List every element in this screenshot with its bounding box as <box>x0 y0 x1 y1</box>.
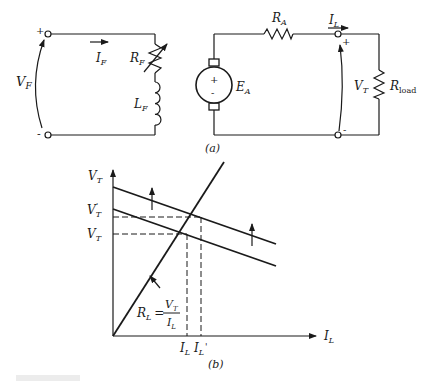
vt-prime-label: VT' <box>87 201 102 219</box>
terminal-voltage-label: VT <box>354 79 369 95</box>
figure-canvas: + - VF IF RF LF + - EA RA <box>0 0 428 384</box>
caption-part-b: (b) <box>208 358 224 371</box>
output-terminal-plus <box>335 31 341 37</box>
svg-text:IL: IL <box>166 316 176 331</box>
field-inductor-icon <box>155 82 161 125</box>
svg-text:VT: VT <box>165 298 179 313</box>
caption-part-a: (a) <box>205 142 220 155</box>
x-axis-label: IL <box>323 329 334 345</box>
field-current-label: IF <box>95 51 107 67</box>
brush-bottom <box>209 103 219 110</box>
field-terminal-minus <box>45 132 51 138</box>
field-plus-sign: + <box>36 25 44 36</box>
load-current-label: IL <box>328 13 339 29</box>
load-line-pointer-icon <box>150 276 160 288</box>
field-voltage-label: VF <box>16 74 32 91</box>
il-prime-label: IL' <box>193 341 208 357</box>
load-resistor-icon <box>374 70 384 99</box>
output-minus-sign: - <box>343 124 346 135</box>
output-terminal-minus <box>335 132 341 138</box>
armature-resistor-label: RA <box>271 11 287 27</box>
output-plus-sign: + <box>342 36 350 47</box>
svg-text:RL=: RL= <box>136 306 164 322</box>
brush-top <box>209 59 219 66</box>
vt-label: VT <box>87 227 102 243</box>
load-resistor-label: Rload <box>389 79 416 95</box>
generator-emf-label: EA <box>235 80 251 96</box>
load-line-equation: RL= VT IL <box>136 298 180 331</box>
field-resistor-label: RF <box>129 51 145 67</box>
armature-circuit: + - EA RA IL + - VT Rload <box>196 11 416 138</box>
field-terminal-plus <box>45 31 51 37</box>
faded-figure-caption <box>16 375 80 381</box>
terminal-voltage-arrow-icon <box>339 45 342 131</box>
generator-minus-sign: - <box>211 87 214 98</box>
field-circuit: + - VF IF RF LF <box>16 25 167 141</box>
armature-resistor-icon <box>264 29 293 39</box>
variable-arrow-icon <box>144 44 167 72</box>
field-minus-sign: - <box>37 128 41 141</box>
terminal-characteristic-graph: VT IL VT' VT IL IL' RL= VT IL <box>87 162 334 357</box>
field-inductor-label: LF <box>133 97 148 113</box>
field-voltage-arrow-icon <box>35 40 44 128</box>
y-axis-label: VT <box>88 169 103 185</box>
il-label: IL <box>179 341 190 357</box>
generator-plus-sign: + <box>210 74 218 85</box>
